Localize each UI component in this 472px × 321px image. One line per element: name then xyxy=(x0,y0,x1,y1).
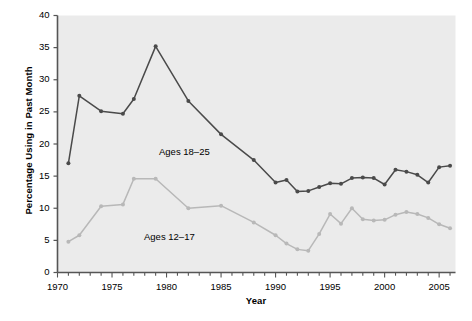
data-point xyxy=(394,213,398,217)
data-point xyxy=(219,204,223,208)
data-point xyxy=(437,165,441,169)
data-point xyxy=(121,112,125,116)
data-point xyxy=(306,249,310,253)
data-point xyxy=(132,177,136,181)
series-annotation-ages-18-25: Ages 18–25 xyxy=(159,146,210,157)
data-point xyxy=(448,164,452,168)
data-point xyxy=(77,94,81,98)
data-point xyxy=(252,158,256,162)
data-point xyxy=(383,182,387,186)
data-point xyxy=(66,240,70,244)
x-tick-label: 1975 xyxy=(92,281,132,292)
data-point xyxy=(274,233,278,237)
x-tick-label: 1980 xyxy=(147,281,187,292)
data-point xyxy=(350,206,354,210)
data-point xyxy=(66,161,70,165)
x-tick-label: 2005 xyxy=(419,281,459,292)
data-point xyxy=(415,173,419,177)
data-point xyxy=(350,176,354,180)
data-point xyxy=(394,168,398,172)
data-point xyxy=(77,233,81,237)
data-point xyxy=(154,177,158,181)
data-point xyxy=(361,217,365,221)
data-point xyxy=(404,210,408,214)
data-point xyxy=(426,216,430,220)
data-point xyxy=(317,232,321,236)
data-point xyxy=(295,190,299,194)
line-chart-plot xyxy=(0,0,472,321)
series-annotation-ages-12-17: Ages 12–17 xyxy=(144,231,195,242)
data-point xyxy=(121,202,125,206)
data-point xyxy=(219,132,223,136)
data-point xyxy=(295,247,299,251)
data-point xyxy=(284,178,288,182)
y-tick-label: 35 xyxy=(28,41,50,52)
data-point xyxy=(132,97,136,101)
data-point xyxy=(99,204,103,208)
data-point xyxy=(252,220,256,224)
chart-container: Percentage Using in Past Month Year 0510… xyxy=(0,0,472,321)
data-point xyxy=(186,206,190,210)
data-point xyxy=(415,212,419,216)
y-tick-label: 0 xyxy=(28,266,50,277)
plot-background xyxy=(58,16,456,273)
x-tick-label: 1970 xyxy=(38,281,78,292)
data-point xyxy=(426,181,430,185)
x-tick-label: 1985 xyxy=(201,281,241,292)
x-axis-title: Year xyxy=(57,295,455,306)
data-point xyxy=(404,170,408,174)
data-point xyxy=(186,99,190,103)
data-point xyxy=(284,242,288,246)
y-tick-label: 40 xyxy=(28,9,50,20)
data-point xyxy=(317,185,321,189)
y-tick-label: 10 xyxy=(28,202,50,213)
y-tick-label: 30 xyxy=(28,73,50,84)
data-point xyxy=(154,44,158,48)
data-point xyxy=(306,189,310,193)
x-tick-label: 1995 xyxy=(310,281,350,292)
data-point xyxy=(372,218,376,222)
x-tick-label: 1990 xyxy=(256,281,296,292)
y-tick-label: 20 xyxy=(28,138,50,149)
data-point xyxy=(383,218,387,222)
y-tick-label: 15 xyxy=(28,170,50,181)
data-point xyxy=(437,222,441,226)
data-point xyxy=(274,181,278,185)
data-point xyxy=(328,212,332,216)
data-point xyxy=(328,181,332,185)
data-point xyxy=(361,175,365,179)
data-point xyxy=(99,109,103,113)
x-tick-label: 2000 xyxy=(365,281,405,292)
y-tick-label: 5 xyxy=(28,234,50,245)
data-point xyxy=(339,182,343,186)
data-point xyxy=(339,222,343,226)
data-point xyxy=(448,226,452,230)
data-point xyxy=(372,176,376,180)
y-tick-label: 25 xyxy=(28,105,50,116)
